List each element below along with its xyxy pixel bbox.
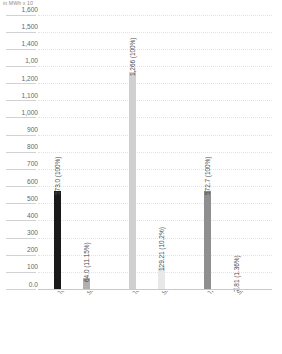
gridline [38,220,272,221]
y-tick-rule [6,289,36,290]
y-tick-rule [6,135,36,136]
y-tick-label: 600 [2,178,38,185]
bar-value-label: 572.7 (100%) [204,156,211,194]
y-tick-label: 300 [2,229,38,236]
x-tick-label: Total energy generation [131,291,182,296]
y-tick-label: 100 [2,263,38,270]
gridline [38,117,272,118]
y-tick-rule [6,238,36,239]
gridline [38,135,272,136]
gridline [38,83,272,84]
bar-value-label: 7.81 (1.36%) [233,255,240,292]
y-tick-rule [6,272,36,273]
y-tick-rule [6,203,36,204]
y-tick-rule [6,100,36,101]
y-tick-rule [6,49,36,50]
y-tick-label: 200 [2,246,38,253]
gridline [38,15,272,16]
x-tick-label: Total electricity generation [56,291,111,296]
y-tick-label: 0.0 [2,281,38,288]
y-tick-rule [6,32,36,33]
y-tick-label: 1,400 [2,40,38,47]
y-tick-rule [6,152,36,153]
x-axis-baseline [38,289,272,290]
y-tick-rule [6,83,36,84]
x-tick-label: Share of renewable energy [235,291,282,296]
gridline [38,49,272,50]
gridline [38,203,272,204]
y-tick-label: 900 [2,126,38,133]
gridline [38,169,272,170]
y-tick-rule [6,169,36,170]
gridline [38,100,272,101]
bar-value-label: 129.21 (10.2%) [158,227,165,271]
bar [129,72,136,289]
y-tick-label: 400 [2,212,38,219]
y-tick-label: 1,600 [2,6,38,13]
y-tick-rule [6,66,36,67]
gridline [38,66,272,67]
bar-value-label: 1,266 (100%) [129,37,136,75]
gridline [38,186,272,187]
y-tick-rule [6,117,36,118]
y-tick-label: 1,100 [2,92,38,99]
y-tick-label: 1,00 [2,57,38,64]
y-tick-rule [6,255,36,256]
gridline [38,32,272,33]
y-tick-label: 1,200 [2,75,38,82]
gridline [38,238,272,239]
y-tick-label: 800 [2,143,38,150]
bar-value-label: 573.0 (100%) [54,156,61,194]
y-tick-rule [6,220,36,221]
y-tick-label: 500 [2,195,38,202]
gridline [38,152,272,153]
y-tick-rule [6,186,36,187]
y-tick-label: 700 [2,160,38,167]
bar [204,191,211,289]
bar [54,191,61,289]
y-tick-label: 1,500 [2,23,38,30]
plot-area: 573.0 (100%)64.0 (11.15%)1,266 (100%)129… [38,15,272,290]
x-axis-labels: Total electricity generationShare of ren… [0,291,281,354]
bar-value-label: 64.0 (11.15%) [83,242,90,282]
bar-chart: in MWh x 10- 1,6001,5001,4001,001,2001,1… [0,0,281,354]
y-tick-label: 1,000 [2,109,38,116]
y-tick-rule [6,15,36,16]
x-tick-label: Transportation [206,291,239,296]
